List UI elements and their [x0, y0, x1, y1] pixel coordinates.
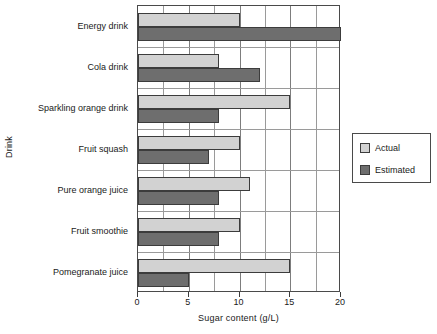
legend-item-actual: Actual [360, 143, 400, 153]
legend-label: Actual [375, 143, 400, 153]
plot-area [137, 5, 340, 292]
bar-estimated [138, 27, 341, 41]
gridline-horizontal [138, 88, 339, 89]
legend-label: Estimated [375, 165, 415, 175]
x-axis-tick-label: 15 [269, 297, 309, 307]
bar-chart-figure: Drink Energy drinkCola drinkSparkling or… [0, 0, 437, 334]
bar-estimated [138, 232, 219, 246]
bar-actual [138, 54, 219, 68]
legend-item-estimated: Estimated [360, 165, 415, 175]
bar-actual [138, 218, 240, 232]
y-axis-category-label: Cola drink [0, 62, 128, 72]
legend-swatch-actual [360, 143, 370, 153]
chart-legend: ActualEstimated [352, 133, 431, 183]
gridline-horizontal [138, 47, 339, 48]
legend-swatch-estimated [360, 165, 370, 175]
gridline-vertical [265, 6, 266, 291]
bar-actual [138, 177, 250, 191]
bar-actual [138, 136, 240, 150]
bar-actual [138, 259, 290, 273]
gridline-horizontal [138, 129, 339, 130]
gridline-horizontal [138, 252, 339, 253]
gridline-horizontal [138, 170, 339, 171]
y-axis-category-label: Fruit squash [0, 144, 128, 154]
gridline-vertical [290, 6, 291, 291]
bar-estimated [138, 191, 219, 205]
x-axis-tick-label: 10 [219, 297, 259, 307]
y-axis-category-label: Pomegranate juice [0, 267, 128, 277]
x-axis-tick-label: 5 [168, 297, 208, 307]
y-axis-category-label: Sparkling orange drink [0, 103, 128, 113]
y-axis-category-label: Fruit smoothie [0, 226, 128, 236]
bar-estimated [138, 68, 260, 82]
x-axis-title: Sugar content (g/L) [137, 313, 340, 323]
bar-estimated [138, 109, 219, 123]
y-axis-category-labels: Energy drinkCola drinkSparkling orange d… [0, 5, 133, 292]
y-axis-category-label: Pure orange juice [0, 185, 128, 195]
bar-estimated [138, 150, 209, 164]
bar-actual [138, 13, 240, 27]
x-axis-tick-label: 0 [117, 297, 157, 307]
gridline-horizontal [138, 211, 339, 212]
bar-estimated [138, 273, 189, 287]
gridline-vertical [240, 6, 241, 291]
gridline-vertical [316, 6, 317, 291]
y-axis-category-label: Energy drink [0, 21, 128, 31]
x-axis-tick-label: 20 [320, 297, 360, 307]
bar-actual [138, 95, 290, 109]
